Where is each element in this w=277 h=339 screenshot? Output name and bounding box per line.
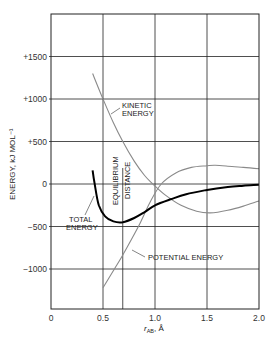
x-tick-label: 1.0: [149, 313, 161, 323]
potential-energy-annotation: POTENTIAL ENERGY: [132, 250, 223, 262]
energy-chart: +1500+1000+5000−500−1000 00.51.01.52.0 E…: [0, 0, 277, 339]
grid-lines: [49, 14, 259, 309]
kinetic-energy-annotation: KINETIC ENERGY: [111, 101, 154, 118]
y-tick-labels: +1500+1000+5000−500−1000: [23, 52, 47, 275]
kinetic-label-line2: ENERGY: [122, 109, 154, 118]
x-axis-label-unit: , Å: [154, 324, 164, 333]
total-label-line2: ENERGY: [66, 223, 98, 232]
y-tick-label: +500: [28, 137, 47, 147]
x-tick-label: 0: [49, 313, 54, 323]
y-tick-label: −1000: [23, 264, 47, 274]
y-tick-label: +1000: [23, 94, 47, 104]
y-tick-label: −500: [28, 222, 47, 232]
x-tick-label: 0.5: [97, 313, 109, 323]
x-tick-label: 2.0: [253, 313, 265, 323]
total-energy-annotation: TOTAL ENERGY: [66, 196, 98, 232]
equilibrium-distance-annotation: EQUILIBRIUM DISTANCE: [111, 156, 132, 205]
x-axis-label: rAB, Å: [144, 324, 164, 334]
equilibrium-label-line2: DISTANCE: [123, 162, 132, 199]
y-axis-label: ENERGY, kJ MOL⁻¹: [8, 128, 17, 200]
potential-label: POTENTIAL ENERGY: [148, 253, 223, 262]
x-tick-label: 1.5: [201, 313, 213, 323]
y-tick-label: +1500: [23, 52, 47, 62]
x-tick-labels: 00.51.01.52.0: [49, 313, 266, 323]
y-tick-label: 0: [42, 179, 47, 189]
equilibrium-label-line1: EQUILIBRIUM: [111, 156, 120, 205]
